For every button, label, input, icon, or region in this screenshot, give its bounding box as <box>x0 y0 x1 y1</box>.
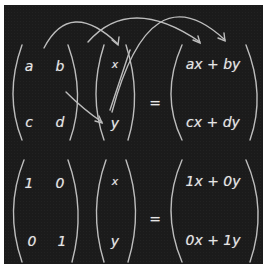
top-result-row1: ax + by <box>186 57 241 71</box>
top-matrix-c: c <box>25 115 33 129</box>
top-matrix-a: a <box>25 59 34 73</box>
top-vector-y: y <box>111 116 119 130</box>
bottom-matrix-r2c1: 0 <box>28 234 37 248</box>
bottom-matrix-left-paren <box>13 160 24 262</box>
bottom-matrix-r1c2: 0 <box>56 176 65 190</box>
top-matrix-b: b <box>56 59 65 73</box>
bottom-equals-sign: = <box>149 212 161 226</box>
bottom-vector-x: x <box>112 175 119 189</box>
top-vector-left-paren <box>96 45 104 140</box>
top-matrix-d: d <box>56 115 65 129</box>
bottom-vector-right-paren <box>126 160 136 262</box>
top-matrix-right-paren <box>68 45 78 140</box>
bottom-vector-y: y <box>111 234 119 248</box>
bottom-vector-left-paren <box>96 160 106 262</box>
top-result-right-paren <box>246 45 257 140</box>
bottom-matrix-r2c2: 1 <box>58 234 67 248</box>
bottom-result-row2: 0x + 1y <box>185 233 240 247</box>
top-matrix-left-paren <box>13 45 22 140</box>
bottom-result-right-paren <box>246 160 258 262</box>
bottom-matrix-r1c1: 1 <box>25 176 34 190</box>
top-result-left-paren <box>171 45 182 140</box>
bottom-result-left-paren <box>171 160 182 262</box>
top-vector-x: x <box>112 58 119 72</box>
bottom-matrix-right-paren <box>68 160 78 262</box>
bottom-result-row1: 1x + 0y <box>185 174 240 188</box>
top-equals-sign: = <box>149 96 161 110</box>
top-result-row2: cx + dy <box>186 115 240 129</box>
